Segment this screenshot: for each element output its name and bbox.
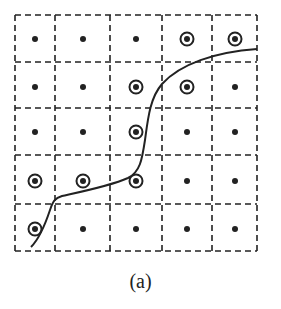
- point-dot: [32, 129, 38, 135]
- point-dot: [133, 36, 139, 42]
- point-dot: [133, 129, 139, 135]
- point-dot: [184, 226, 190, 232]
- sample-points: [29, 33, 242, 236]
- point-dot: [32, 36, 38, 42]
- point-dot: [232, 84, 238, 90]
- point-dot: [80, 36, 86, 42]
- point-dot: [32, 226, 38, 232]
- point-dot: [80, 178, 86, 184]
- boundary-grid-diagram: [0, 0, 281, 270]
- point-dot: [184, 129, 190, 135]
- point-dot: [32, 178, 38, 184]
- point-dot: [184, 178, 190, 184]
- point-dot: [80, 84, 86, 90]
- point-dot: [133, 178, 139, 184]
- point-dot: [133, 226, 139, 232]
- point-dot: [232, 178, 238, 184]
- point-dot: [232, 36, 238, 42]
- point-dot: [232, 129, 238, 135]
- boundary-curve: [31, 49, 257, 247]
- point-dot: [80, 129, 86, 135]
- point-dot: [80, 226, 86, 232]
- point-dot: [232, 226, 238, 232]
- point-dot: [184, 36, 190, 42]
- point-dot: [184, 84, 190, 90]
- figure-caption: (a): [0, 270, 281, 293]
- point-dot: [133, 84, 139, 90]
- point-dot: [32, 84, 38, 90]
